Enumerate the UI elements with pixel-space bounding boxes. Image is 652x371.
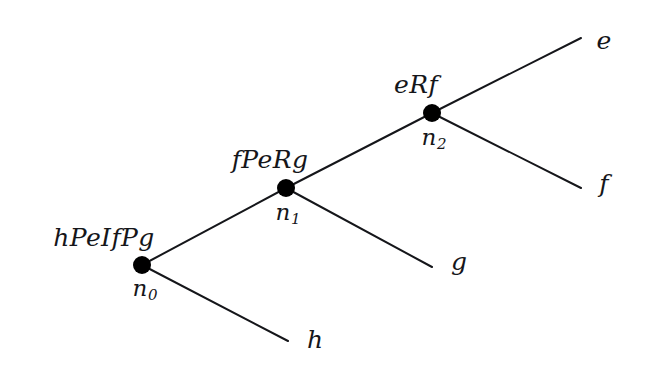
edge-n0-n1 (142, 188, 286, 265)
node-dot-n1[interactable] (277, 179, 295, 197)
leaf-label-e: e (597, 28, 612, 53)
node-label-subscript-n0: 0 (147, 286, 157, 304)
leaf-label-f: f (599, 171, 608, 196)
node-dots-group (133, 104, 441, 274)
edge-n1-g (286, 188, 432, 267)
node-dot-n2[interactable] (423, 104, 441, 122)
tree-diagram-canvas: hPeIfPgn0fPeRgn1eRfn2efgh (0, 0, 652, 371)
node-label-base-n0: n (133, 275, 148, 301)
edge-n2-f (432, 113, 581, 188)
node-dot-n0[interactable] (133, 256, 151, 274)
node-expression-n0: hPeIfPg (53, 225, 154, 250)
leaf-label-h: h (307, 327, 323, 352)
node-label-n1: n1 (276, 201, 301, 227)
tree-edges-layer (0, 0, 652, 371)
node-label-n2: n2 (422, 126, 447, 152)
node-label-base-n1: n (276, 199, 291, 225)
edge-n2-e (432, 38, 581, 113)
node-label-n0: n0 (133, 277, 158, 303)
node-expression-n1: fPeRg (232, 147, 309, 172)
node-label-subscript-n2: 2 (436, 135, 446, 153)
node-label-base-n2: n (422, 124, 437, 150)
edges-group (142, 38, 581, 341)
leaf-label-g: g (451, 249, 467, 274)
node-expression-n2: eRf (394, 72, 438, 97)
edge-n0-h (142, 265, 288, 341)
node-label-subscript-n1: 1 (290, 210, 300, 228)
